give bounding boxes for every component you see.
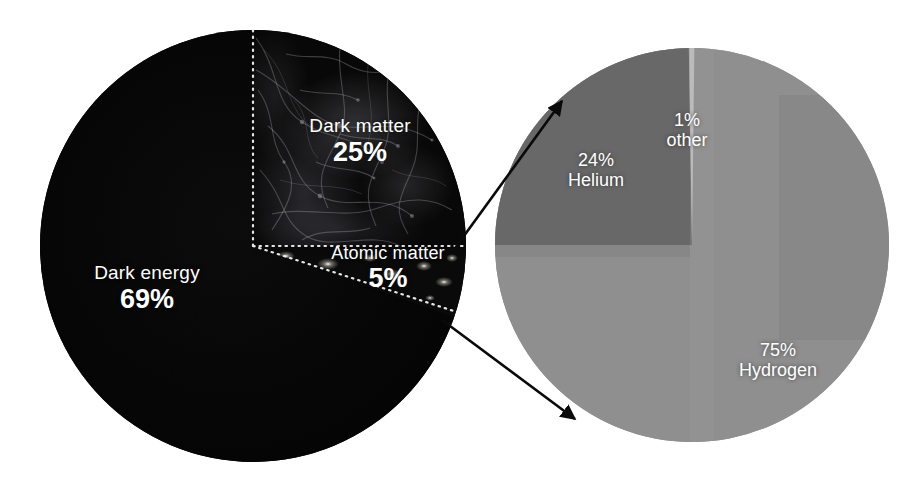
figure-canvas: Dark energy 69% Dark matter 25% Atomic m… (0, 0, 920, 481)
pie-chart-atomic-composition (495, 48, 889, 442)
pie-chart-cosmic-budget (40, 30, 466, 462)
